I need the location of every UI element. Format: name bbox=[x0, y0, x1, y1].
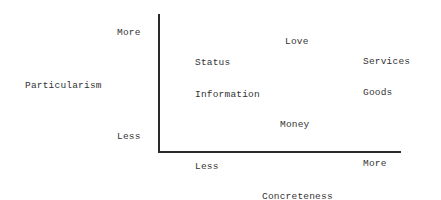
resource-love: Love bbox=[285, 36, 309, 47]
x-axis-line bbox=[158, 151, 401, 153]
y-axis-more-label: More bbox=[117, 27, 141, 38]
x-axis-less-label: Less bbox=[195, 161, 219, 172]
resource-goods: Goods bbox=[363, 87, 393, 98]
resource-services: Services bbox=[363, 56, 410, 67]
resource-status: Status bbox=[195, 57, 230, 68]
resource-money: Money bbox=[280, 119, 310, 130]
resource-information: Information bbox=[195, 89, 260, 100]
y-axis-line bbox=[158, 14, 160, 153]
x-axis-title: Concreteness bbox=[262, 191, 333, 200]
x-axis-more-label: More bbox=[363, 158, 387, 169]
y-axis-title: Particularism bbox=[25, 80, 102, 91]
y-axis-less-label: Less bbox=[117, 131, 141, 142]
